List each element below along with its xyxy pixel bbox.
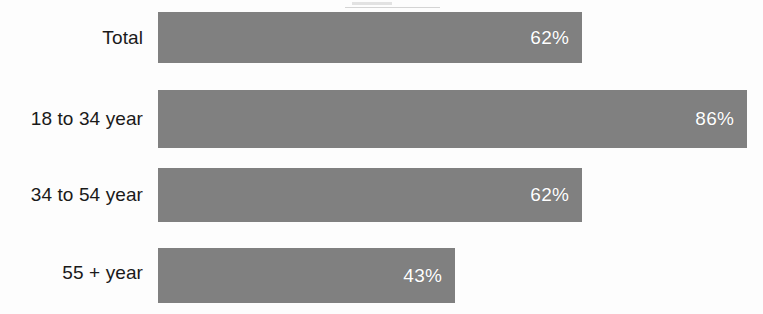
bar-track: 43% bbox=[158, 248, 763, 303]
bar-row: 55 + year 43% bbox=[0, 248, 763, 303]
bar-18-to-34-year: 86% bbox=[158, 90, 747, 148]
bar-rows: Total 62% 18 to 34 year 86% 34 to 54 yea… bbox=[0, 0, 763, 314]
category-label-total: Total bbox=[0, 27, 143, 49]
bar-track: 86% bbox=[158, 90, 763, 148]
bar-value-label-34-to-54-year: 62% bbox=[530, 184, 582, 206]
bar-row: Total 62% bbox=[0, 12, 763, 63]
horizontal-bar-chart: Total 62% 18 to 34 year 86% 34 to 54 yea… bbox=[0, 0, 763, 314]
bar-value-label-18-to-34-year: 86% bbox=[695, 108, 747, 130]
bar-track: 62% bbox=[158, 12, 763, 63]
category-label-34-to-54-year: 34 to 54 year bbox=[0, 184, 143, 206]
bar-34-to-54-year: 62% bbox=[158, 168, 582, 222]
bar-track: 62% bbox=[158, 168, 763, 222]
bar-55-plus-year: 43% bbox=[158, 248, 455, 303]
bar-row: 18 to 34 year 86% bbox=[0, 90, 763, 148]
bar-value-label-55-plus-year: 43% bbox=[403, 265, 455, 287]
bar-total: 62% bbox=[158, 12, 582, 63]
bar-value-label-total: 62% bbox=[530, 27, 582, 49]
category-label-18-to-34-year: 18 to 34 year bbox=[0, 108, 143, 130]
category-label-55-plus-year: 55 + year bbox=[0, 262, 143, 284]
bar-row: 34 to 54 year 62% bbox=[0, 168, 763, 222]
